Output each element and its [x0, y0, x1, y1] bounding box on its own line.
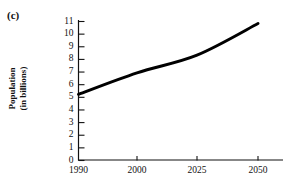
y-tick-label: 5	[52, 91, 74, 101]
x-tick-label: 2000	[114, 165, 160, 176]
y-tick-label: 6	[52, 79, 74, 89]
figure-panel: (c) Population (in billions) 01234567891…	[0, 0, 289, 191]
y-tick-label: 9	[52, 41, 74, 51]
y-tick-label: 0	[52, 155, 74, 165]
population-curve	[79, 24, 259, 95]
axes-group	[78, 20, 283, 161]
x-tick-label: 2025	[174, 165, 220, 176]
y-tick-label: 8	[52, 53, 74, 63]
y-tick-label: 11	[52, 16, 74, 26]
y-tick-label: 4	[52, 104, 74, 114]
y-tick-label: 2	[52, 129, 74, 139]
x-tick-label: 1990	[56, 165, 102, 176]
y-tick-label: 3	[52, 117, 74, 127]
y-tick-label: 7	[52, 66, 74, 76]
plot-area	[0, 0, 289, 191]
x-tick-label: 2050	[235, 165, 281, 176]
y-tick-label: 1	[52, 142, 74, 152]
y-tick-label: 10	[52, 28, 74, 38]
